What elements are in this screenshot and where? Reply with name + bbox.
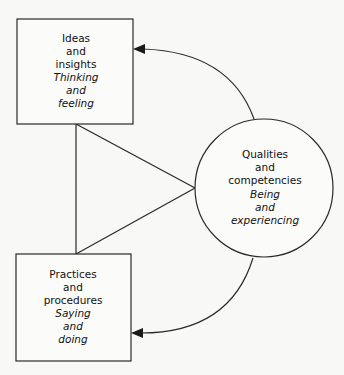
arrowhead-to-practices-icon: [131, 328, 143, 338]
arrow-to-practices: [141, 258, 253, 333]
qualities-label-line: and: [255, 201, 275, 213]
ideas-label-line: and: [66, 45, 86, 57]
practices-label-line: doing: [58, 333, 88, 345]
qualities-label-line: and: [255, 161, 275, 173]
ideas-label-line: Thinking: [54, 71, 99, 83]
qualities-label-line: Qualities: [242, 148, 288, 160]
ideas-label-line: insights: [56, 58, 97, 70]
ideas-label-line: and: [66, 84, 86, 96]
qualities-label-line: experiencing: [231, 214, 299, 226]
practices-label-line: and: [63, 281, 83, 293]
connecting-triangle: [76, 124, 195, 254]
practices-label-line: procedures: [44, 294, 103, 306]
practices-label-line: Saying: [55, 307, 91, 319]
arrow-to-ideas: [143, 49, 254, 119]
practices-label-line: Practices: [49, 268, 96, 280]
diagram-canvas: IdeasandinsightsThinkingandfeeling Pract…: [0, 0, 344, 375]
ideas-label-line: Ideas: [62, 32, 90, 44]
qualities-label-line: Being: [250, 188, 280, 200]
practices-label-line: and: [63, 320, 83, 332]
arrowhead-to-ideas-icon: [133, 44, 145, 54]
ideas-label-line: feeling: [58, 97, 94, 109]
qualities-label-line: competencies: [228, 174, 301, 186]
